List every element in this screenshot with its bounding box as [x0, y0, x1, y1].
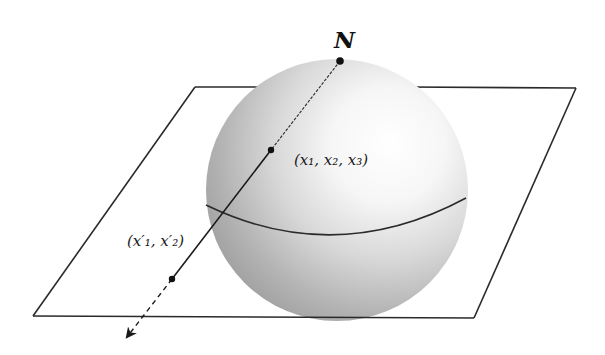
north-pole-point: [336, 57, 344, 65]
north-pole-label: N: [333, 26, 356, 53]
stereographic-projection-diagram: N (x₁, x₂, x₃) (x′₁, x′₂): [0, 0, 605, 355]
plane-top-edge-right: [407, 87, 576, 88]
plane-bottom-edge: [33, 316, 474, 318]
plane-point-label: (x′₁, x′₂): [127, 232, 184, 250]
plane-point: [169, 276, 175, 282]
sphere: [206, 59, 468, 321]
sphere-point: [268, 147, 274, 153]
line-segment-dashed-extension: [127, 279, 172, 337]
sphere-point-label: (x₁, x₂, x₃): [294, 151, 368, 169]
plane-right-edge: [474, 88, 576, 318]
